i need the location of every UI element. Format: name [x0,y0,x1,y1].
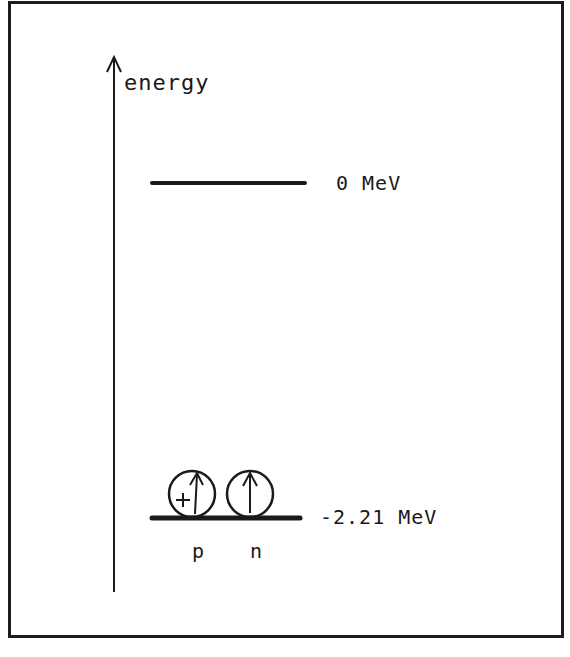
energy-axis [107,57,121,592]
energy-axis-label: energy [124,72,209,94]
energy-level-label-0mev: 0 MeV [336,173,401,193]
proton-label: p [192,541,204,561]
energy-level-diagram [0,0,570,657]
neutron-label: n [250,541,262,561]
neutron-icon [227,471,273,517]
proton-icon [169,471,215,517]
energy-level-label-bound: -2.21 MeV [320,507,437,527]
